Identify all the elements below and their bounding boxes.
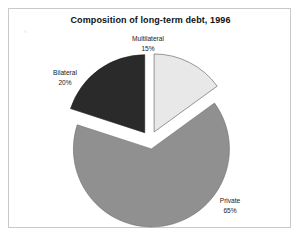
pie-label-private: Private 65% bbox=[182, 196, 278, 215]
pie-label-bilateral: Bilateral 20% bbox=[22, 68, 108, 87]
pie-label-multilateral-name: Multilateral bbox=[93, 34, 203, 44]
chart-figure: Composition of long-term debt, 1996 Mult… bbox=[0, 0, 301, 238]
pie-label-bilateral-percent: 20% bbox=[22, 78, 108, 88]
pie-label-private-percent: 65% bbox=[182, 206, 278, 216]
pie-label-multilateral: Multilateral 15% bbox=[93, 34, 203, 53]
pie-label-bilateral-name: Bilateral bbox=[22, 68, 108, 78]
pie-label-multilateral-percent: 15% bbox=[93, 44, 203, 54]
pie-label-private-name: Private bbox=[182, 196, 278, 206]
pie-slice-bilateral[interactable] bbox=[71, 55, 145, 133]
